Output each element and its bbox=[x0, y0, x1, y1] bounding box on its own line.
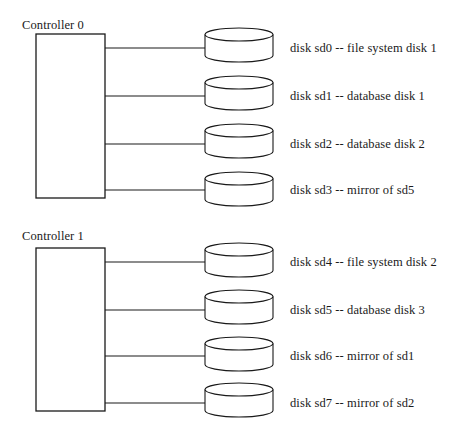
controller-group-controller-1 bbox=[36, 243, 273, 417]
disk-cylinder-sd4 bbox=[205, 243, 273, 277]
diagram-canvas bbox=[0, 0, 460, 441]
disk-cylinder-sd0 bbox=[205, 28, 273, 62]
disk-cylinder-sd2 bbox=[205, 124, 273, 158]
disk-label-sd2: disk sd2 -- database disk 2 bbox=[290, 137, 425, 151]
disk-cylinder-top-sd0 bbox=[205, 28, 273, 41]
controller-box-controller-0[interactable] bbox=[36, 34, 105, 198]
disk-cylinder-sd6 bbox=[205, 337, 273, 371]
disk-cylinder-sd7 bbox=[205, 383, 273, 417]
disk-label-sd7: disk sd7 -- mirror of sd2 bbox=[290, 396, 414, 410]
disk-label-sd1: disk sd1 -- database disk 1 bbox=[290, 89, 425, 103]
disk-label-sd4: disk sd4 -- file system disk 2 bbox=[290, 255, 437, 269]
disk-controller-diagram: Controller 0disk sd0 -- file system disk… bbox=[0, 0, 460, 441]
disk-cylinder-top-sd5 bbox=[205, 290, 273, 303]
disk-label-sd6: disk sd6 -- mirror of sd1 bbox=[290, 349, 414, 363]
disk-cylinder-top-sd1 bbox=[205, 76, 273, 89]
disk-cylinder-top-sd6 bbox=[205, 337, 273, 350]
disk-cylinder-sd5 bbox=[205, 290, 273, 324]
disk-label-sd5: disk sd5 -- database disk 3 bbox=[290, 303, 425, 317]
disk-label-sd0: disk sd0 -- file system disk 1 bbox=[290, 41, 437, 55]
controller-box-controller-1[interactable] bbox=[36, 248, 105, 411]
disk-label-sd3: disk sd3 -- mirror of sd5 bbox=[290, 183, 414, 197]
controller-caption-controller-1: Controller 1 bbox=[22, 229, 84, 243]
disk-cylinder-top-sd2 bbox=[205, 124, 273, 137]
disk-cylinder-top-sd7 bbox=[205, 383, 273, 396]
disk-cylinder-sd1 bbox=[205, 76, 273, 110]
disk-cylinder-sd3 bbox=[205, 172, 273, 206]
disk-cylinder-top-sd3 bbox=[205, 172, 273, 185]
controller-caption-controller-0: Controller 0 bbox=[22, 18, 84, 32]
controller-group-controller-0 bbox=[36, 28, 273, 206]
disk-cylinder-top-sd4 bbox=[205, 243, 273, 256]
